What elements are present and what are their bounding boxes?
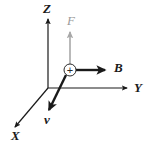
velocity-vector-group: v bbox=[44, 75, 66, 127]
magnetic-field-vector-group: B bbox=[76, 60, 123, 75]
magnetic-field-vector-label: B bbox=[113, 60, 123, 75]
velocity-vector-arrow bbox=[49, 75, 66, 110]
physics-diagram-figure: Z Y X F B v + bbox=[0, 0, 155, 145]
force-vector-label: F bbox=[66, 13, 76, 28]
force-vector-group: F bbox=[66, 13, 76, 64]
positive-charge-group: + bbox=[64, 64, 76, 76]
positive-charge-sign: + bbox=[67, 64, 73, 76]
x-axis-label: X bbox=[10, 128, 20, 143]
y-axis-label: Y bbox=[134, 80, 143, 95]
physics-diagram-svg: Z Y X F B v + bbox=[0, 0, 155, 145]
velocity-vector-label: v bbox=[44, 112, 50, 127]
z-axis-label: Z bbox=[42, 1, 51, 16]
